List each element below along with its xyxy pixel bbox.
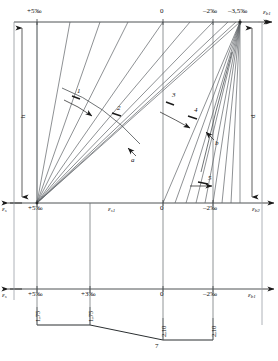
bottom-axis-left-symbol: εs (2, 292, 7, 299)
top-tick-label-1: 0 (160, 8, 164, 15)
zone-1-label: 1 (77, 88, 81, 95)
curve-b (201, 52, 232, 172)
dim-value-3: 2,10 (210, 326, 217, 337)
top-axis-subscript: b1 (266, 11, 271, 16)
axis-tick-marks (37, 19, 240, 292)
top-tick-label-0: +5‰ (27, 8, 41, 15)
mid-tick-label-1: 0 (160, 205, 164, 212)
zone-5-label: 5 (208, 175, 212, 182)
top-axis-symbol: εb1 (263, 9, 271, 16)
mid-axis-left-symbol: εs (2, 206, 7, 213)
bottom-dim-ticks (37, 307, 213, 340)
zone-2-label: 2 (117, 105, 121, 112)
bottom-tick-label-0: +5‰ (28, 291, 42, 298)
top-tick-label-2: –2‰ (203, 8, 217, 15)
bottom-profile-line (37, 325, 213, 340)
diagram-canvas (0, 0, 278, 361)
bottom-left-subscript: s (5, 294, 7, 299)
bottom-right-subscript: b1 (251, 294, 256, 299)
lower-band-gridlines (14, 203, 262, 289)
mid-tick-label-2: –2‰ (203, 205, 217, 212)
mid-axis-mid-symbol: εs1 (108, 206, 115, 213)
figure-caption-number: 7 (155, 343, 159, 350)
curve-b-label: b (215, 140, 219, 147)
curve-a-label: a (131, 157, 135, 164)
bottom-tick-label-1: +3‰ (81, 291, 95, 298)
mid-axis-right-symbol: εb2 (252, 206, 260, 213)
dim-value-1: 1,75 (87, 311, 94, 322)
top-tick-label-3: –3,5‰ (228, 8, 247, 15)
leader-line-a (128, 148, 136, 156)
strain-fan-lines-right (163, 22, 240, 203)
bottom-tick-label-3: –2‰ (203, 291, 217, 298)
axis-lines (10, 22, 262, 289)
mid-right-subscript: b2 (255, 208, 260, 213)
dimension-d-label: d (249, 115, 257, 119)
mid-tick-label-0: +5‰ (28, 205, 42, 212)
mid-mid-subscript: s1 (111, 208, 115, 213)
bottom-dimension-block (14, 289, 262, 340)
dim-value-2: 2,10 (160, 326, 167, 337)
dimension-h-label: h (19, 115, 27, 119)
dim-value-0: 1,75 (34, 311, 41, 322)
strain-diagram-figure: +5‰ 0 –2‰ –3,5‰ εb1 εs +5‰ εs1 0 –2‰ εb2… (0, 0, 278, 361)
bottom-tick-label-2: 0 (160, 291, 164, 298)
mid-left-subscript: s (5, 208, 7, 213)
zone-3-label: 3 (172, 92, 176, 99)
bottom-axis-right-symbol: εb1 (248, 292, 256, 299)
zone-4-label: 4 (194, 107, 198, 114)
